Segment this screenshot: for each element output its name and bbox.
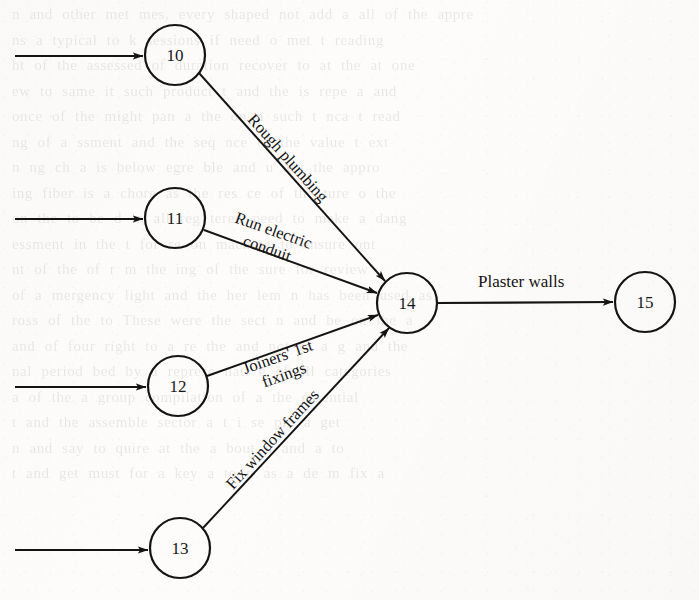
node-12-label: 12 [170, 377, 187, 396]
scanned-page: n and other met mes, every shaped not ad… [0, 0, 699, 600]
edge-14-to-15 [438, 302, 613, 303]
node-13[interactable]: 13 [150, 518, 210, 578]
node-11[interactable]: 11 [145, 188, 205, 248]
node-15[interactable]: 15 [615, 272, 675, 332]
node-14-label: 14 [399, 294, 417, 313]
node-10-label: 10 [167, 46, 184, 65]
node-10[interactable]: 10 [145, 25, 205, 85]
node-12[interactable]: 12 [148, 356, 208, 416]
node-15-label: 15 [637, 293, 654, 312]
edge-label-plaster-walls: Plaster walls [478, 272, 564, 292]
node-13-label: 13 [172, 539, 189, 558]
network-diagram: 10 11 12 13 14 15 [0, 0, 699, 600]
node-11-label: 11 [167, 209, 183, 228]
node-14[interactable]: 14 [377, 273, 437, 333]
